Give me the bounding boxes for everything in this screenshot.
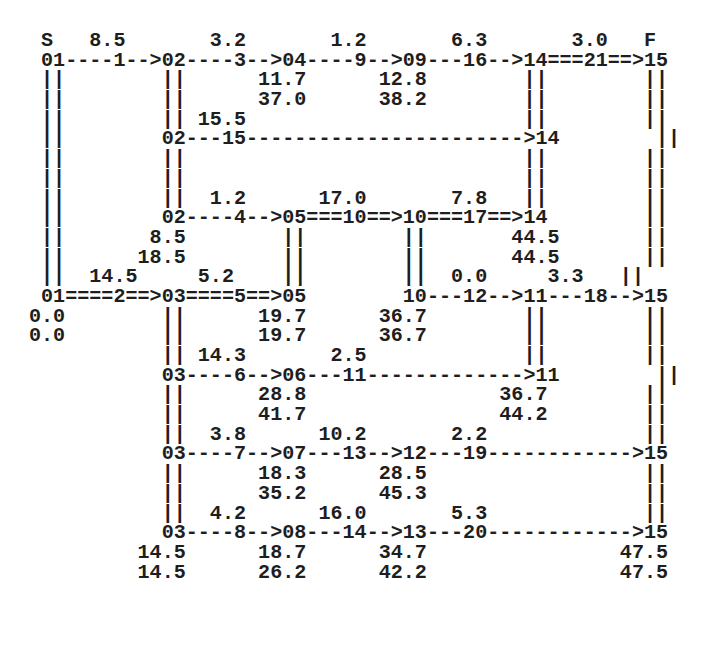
node-times-line-03-08-13-15-early: 14.5 18.7 34.7 47.5 bbox=[29, 543, 680, 563]
header-line-start-finish-durations: S 8.5 3.2 1.2 6.3 3.0 F bbox=[29, 31, 680, 51]
duration-line-activities-2-5-12-18: || 14.5 5.2 || || 0.0 3.3 || bbox=[29, 267, 680, 287]
activity-network-diagram: S 8.5 3.2 1.2 6.3 3.0 F 01----1-->02----… bbox=[29, 31, 680, 582]
node-times-line-03-08-13-15-late: 14.5 26.2 42.2 47.5 bbox=[29, 563, 680, 583]
path-line-01-03-05-10-11-15: 01====2==>03====5==>05 10---12-->11---18… bbox=[29, 287, 680, 307]
node-times-line-06-11-late: || 41.7 44.2 || bbox=[29, 405, 680, 425]
duration-line-activities-6-11: || 14.3 2.5 || || bbox=[29, 346, 680, 366]
node-times-line-07-12-late: || 35.2 45.3 || bbox=[29, 484, 680, 504]
connector-line: || || || || bbox=[29, 149, 680, 169]
node-times-line-02-14-early: || 8.5 || || 44.5 || bbox=[29, 228, 680, 248]
node-times-line-07-12-early: || 18.3 28.5 || bbox=[29, 464, 680, 484]
path-line-02-05-10-14: || 02----4-->05===10==>10===17==>14 || bbox=[29, 208, 680, 228]
path-line-03-08-13-15: 03----8-->08---14-->13---20------------>… bbox=[29, 523, 680, 543]
connector-line: || || || || bbox=[29, 169, 680, 189]
node-times-line-04-09-late: || || 37.0 38.2 || || bbox=[29, 90, 680, 110]
